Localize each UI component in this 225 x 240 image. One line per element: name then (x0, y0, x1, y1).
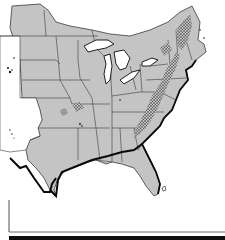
range-map (0, 0, 225, 240)
bottom-bar (9, 236, 225, 240)
lake-okeechobee (162, 186, 166, 191)
map-canvas (0, 0, 225, 240)
